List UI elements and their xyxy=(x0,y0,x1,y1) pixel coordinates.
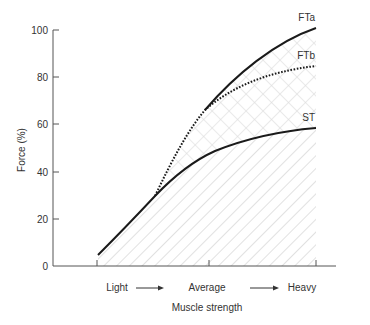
ytick-60: 60 xyxy=(37,119,49,130)
ytick-40: 40 xyxy=(37,167,49,178)
x-label-heavy: Heavy xyxy=(288,282,316,293)
label-ftb: FTb xyxy=(297,50,315,61)
y-axis-title: Force (%) xyxy=(16,128,27,172)
x-axis-title: Muscle strength xyxy=(172,302,243,313)
force-muscle-strength-chart: 100 80 60 40 20 0 Force (%) Light Averag… xyxy=(0,0,370,325)
x-label-light: Light xyxy=(106,282,128,293)
arrow-right-icon xyxy=(250,286,279,291)
x-axis: Light Average Heavy Muscle strength xyxy=(53,260,336,313)
ytick-80: 80 xyxy=(37,72,49,83)
label-st: ST xyxy=(302,112,315,123)
ytick-0: 0 xyxy=(42,261,48,272)
label-fta: FTa xyxy=(298,12,315,23)
ytick-20: 20 xyxy=(37,214,49,225)
arrow-right-icon xyxy=(136,286,164,291)
y-axis: 100 80 60 40 20 0 Force (%) xyxy=(16,25,59,272)
ytick-100: 100 xyxy=(31,25,48,36)
x-label-average: Average xyxy=(188,282,226,293)
